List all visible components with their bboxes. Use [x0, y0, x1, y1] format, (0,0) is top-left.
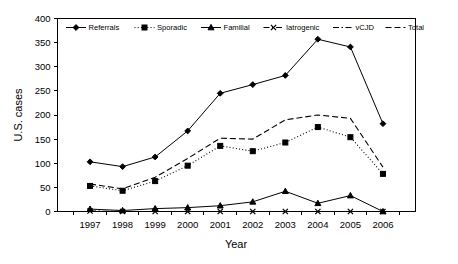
x-tick-label: 2000	[177, 219, 198, 230]
y-tick-label: 350	[35, 37, 51, 48]
y-tick-label: 400	[35, 13, 51, 24]
x-tick-label: 2003	[275, 219, 296, 230]
chart-canvas: 050100150200250300350400 199719981999200…	[0, 0, 458, 264]
y-tick-label: 100	[35, 158, 51, 169]
x-tick-label: 2001	[210, 219, 231, 230]
data-point-marker	[348, 135, 353, 140]
x-tick-label: 2006	[372, 219, 393, 230]
data-point-marker	[283, 140, 288, 145]
x-tick-label: 1997	[79, 219, 100, 230]
y-tick-label: 300	[35, 61, 51, 72]
x-tick-label: 1998	[112, 219, 133, 230]
y-axis-title: U.S. cases	[12, 88, 24, 142]
x-tick-label: 1999	[145, 219, 166, 230]
y-tick-label: 200	[35, 109, 51, 120]
legend-item-label: vCJD	[356, 23, 375, 32]
legend-item-label: Sporadic	[157, 23, 187, 32]
data-point-marker	[185, 163, 190, 168]
legend-swatch-marker	[142, 25, 147, 30]
legend-item-label: Referrals	[89, 23, 120, 32]
data-point-marker	[153, 179, 158, 184]
x-axis-title: Year	[225, 238, 248, 250]
legend-item-label: Familial	[224, 23, 250, 32]
data-point-marker	[380, 171, 385, 176]
data-point-marker	[218, 143, 223, 148]
legend-item-label: Iatrogenic	[286, 23, 320, 32]
y-tick-label: 0	[45, 206, 50, 217]
cjd-surveillance-line-chart: 050100150200250300350400 199719981999200…	[0, 0, 458, 264]
data-point-marker	[250, 149, 255, 154]
data-point-marker	[315, 125, 320, 130]
y-tick-label: 150	[35, 134, 51, 145]
legend-item-label: Total	[408, 23, 424, 32]
x-tick-label: 2002	[242, 219, 263, 230]
y-tick-label: 250	[35, 85, 51, 96]
x-tick-label: 2005	[340, 219, 361, 230]
y-tick-label: 50	[40, 182, 51, 193]
x-tick-label: 2004	[307, 219, 328, 230]
